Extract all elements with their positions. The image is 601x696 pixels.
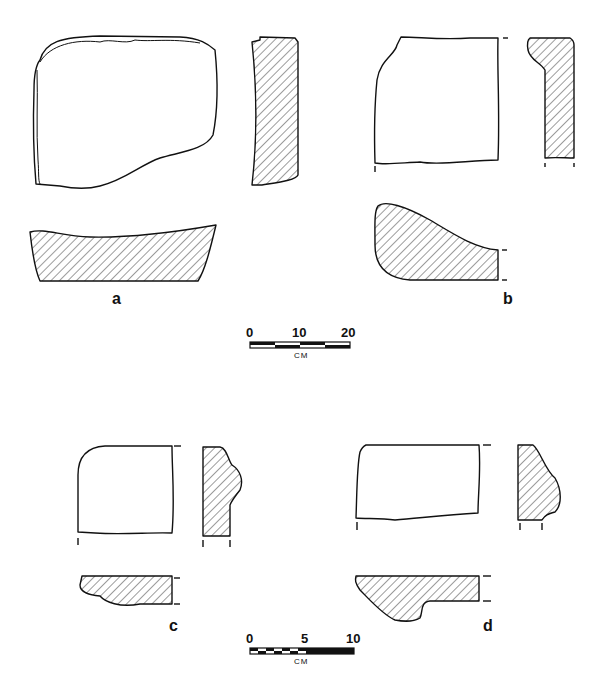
specimen-c-end-section xyxy=(80,576,180,605)
scale-top-unit: CM xyxy=(294,351,308,360)
scale-bottom-tick-0: 0 xyxy=(246,631,253,646)
artifact-plate xyxy=(0,0,601,696)
specimen-b-side-section xyxy=(527,38,574,167)
specimen-label-d: d xyxy=(483,617,493,635)
scale-top-tick-0: 0 xyxy=(246,325,253,340)
specimen-d-side-section xyxy=(518,445,560,530)
scale-bottom-tick-10: 10 xyxy=(346,631,360,646)
specimen-d-plan xyxy=(356,445,491,530)
scale-bar-bottom xyxy=(250,648,354,654)
scale-bottom-unit: CM xyxy=(294,657,308,666)
scale-bottom-tick-5: 5 xyxy=(301,631,308,646)
scale-top-tick-10: 10 xyxy=(292,325,306,340)
scale-top-tick-20: 20 xyxy=(341,325,355,340)
specimen-label-a: a xyxy=(112,290,121,308)
specimen-a-plan xyxy=(33,36,217,188)
specimen-b-end-section xyxy=(375,204,507,280)
specimen-label-c: c xyxy=(169,617,178,635)
specimen-d-end-section xyxy=(355,576,491,621)
specimen-a-side-section xyxy=(252,37,298,185)
specimen-b-plan xyxy=(375,37,508,172)
scale-bar-top xyxy=(250,342,350,348)
specimen-c-plan xyxy=(78,446,181,545)
specimen-c-side-section xyxy=(203,447,242,547)
specimen-a-end-section xyxy=(30,225,216,281)
specimen-label-b: b xyxy=(503,290,513,308)
